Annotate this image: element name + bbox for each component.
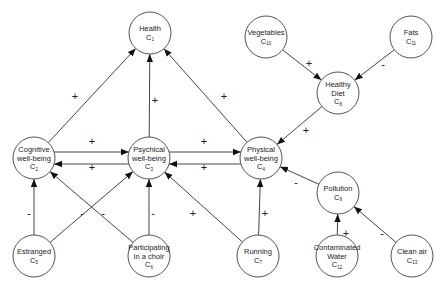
edge-sign-positive: + bbox=[303, 124, 309, 136]
node-c12[interactable]: ContaminatedWaterC12 bbox=[314, 235, 361, 277]
edge-sign-positive: + bbox=[262, 207, 268, 219]
edge-c13-to-c9 bbox=[354, 207, 396, 243]
fuzzy-cognitive-map: HealthC1Cognitivewell-beingC2Psychicalwe… bbox=[0, 0, 446, 295]
node-c10[interactable]: VegetablesC10 bbox=[245, 16, 287, 58]
node-c5[interactable]: EstrangedC5 bbox=[13, 235, 55, 277]
node-c3[interactable]: Psychicalwell-beingC3 bbox=[128, 137, 170, 179]
edge-c7-to-c3 bbox=[165, 172, 243, 242]
edge-sign-negative: - bbox=[381, 58, 385, 70]
edge-sign-negative: - bbox=[101, 207, 105, 219]
edge-sign-positive: + bbox=[152, 94, 158, 106]
edge-c7-to-c4 bbox=[259, 179, 261, 235]
edge-sign-positive: + bbox=[201, 135, 207, 147]
edge-sign-positive: + bbox=[89, 161, 95, 173]
node-c2[interactable]: Cognitivewell-beingC2 bbox=[13, 137, 55, 179]
node-c11[interactable]: FatsC11 bbox=[390, 16, 432, 58]
edge-sign-negative: - bbox=[380, 227, 384, 239]
node-c4[interactable]: Physicalwell-beingC4 bbox=[240, 137, 282, 179]
edge-sign-positive: + bbox=[343, 227, 349, 239]
node-c7[interactable]: RunningC7 bbox=[237, 235, 279, 277]
edge-sign-positive: + bbox=[221, 90, 227, 102]
edge-sign-negative: - bbox=[27, 207, 31, 219]
edge-c2-to-c1 bbox=[48, 48, 135, 142]
edge-c3-to-c1 bbox=[149, 54, 150, 137]
node-label: Clean air bbox=[397, 247, 428, 256]
edge-c4-to-c1 bbox=[164, 49, 247, 143]
edge-sign-negative: - bbox=[294, 176, 298, 188]
edge-sign-positive: + bbox=[89, 135, 95, 147]
edge-c9-to-c4 bbox=[280, 167, 319, 185]
node-c1[interactable]: HealthC1 bbox=[129, 12, 171, 54]
edge-sign-positive: + bbox=[72, 90, 78, 102]
node-c8[interactable]: HealthyDietC8 bbox=[317, 72, 359, 114]
edge-sign-negative: - bbox=[80, 207, 84, 219]
edge-sign-negative: - bbox=[151, 207, 155, 219]
node-c9[interactable]: PollutionC9 bbox=[317, 172, 359, 214]
edge-c11-to-c8 bbox=[355, 50, 395, 80]
edge-sign-positive: + bbox=[201, 161, 207, 173]
edge-sign-positive: + bbox=[190, 207, 196, 219]
edge-sign-positive: + bbox=[306, 57, 312, 69]
node-c6[interactable]: Participatingin a choirC6 bbox=[128, 235, 170, 277]
edge-c10-to-c8 bbox=[283, 50, 322, 80]
nodes-layer: HealthC1Cognitivewell-beingC2Psychicalwe… bbox=[13, 12, 433, 277]
node-c13[interactable]: Clean airC13 bbox=[391, 235, 433, 277]
node-label: Water bbox=[327, 252, 347, 261]
edge-c8-to-c4 bbox=[277, 107, 322, 145]
